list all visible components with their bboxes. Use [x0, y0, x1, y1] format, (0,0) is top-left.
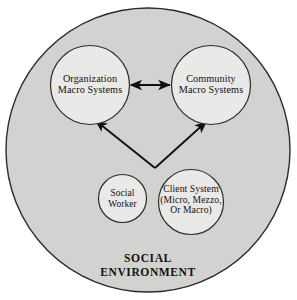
social-environment-circle — [6, 8, 290, 292]
diagram-canvas: Organization Macro Systems Community Mac… — [0, 0, 297, 300]
diagram-graphics — [0, 0, 297, 300]
organization-macro-systems-circle — [51, 46, 130, 125]
community-macro-systems-circle — [172, 46, 251, 125]
social-worker-circle — [99, 175, 147, 223]
client-system-circle — [159, 170, 224, 235]
